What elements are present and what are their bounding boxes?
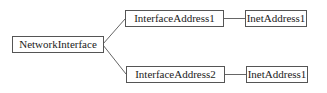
node-interface-address-2: InterfaceAddress2 — [126, 66, 225, 83]
node-interface-address-1: InterfaceAddress1 — [125, 10, 224, 27]
node-inet-address-1-top: InetAddress1 — [245, 10, 307, 27]
edge-ni-ia1 — [103, 19, 125, 44]
node-inet-address-1-bottom: InetAddress1 — [246, 66, 308, 83]
node-network-interface: NetworkInterface — [12, 36, 104, 53]
edge-ni-ia2 — [103, 45, 126, 74]
